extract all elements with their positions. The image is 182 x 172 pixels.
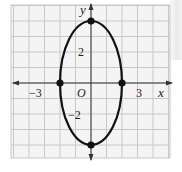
y-axis-label: y <box>78 2 86 17</box>
origin-label: O <box>77 86 86 100</box>
intercept-point <box>118 79 125 86</box>
x-tick-label-3: 3 <box>136 86 142 100</box>
x-axis-label: x <box>157 85 164 100</box>
x-tick-label-neg3: −3 <box>29 86 42 100</box>
intercept-point <box>87 141 94 148</box>
y-tick-label-2: 2 <box>78 45 84 59</box>
ellipse-graph: y x O −3 3 2 −2 <box>0 0 182 172</box>
intercept-point <box>56 79 63 86</box>
intercept-point <box>87 17 94 24</box>
y-tick-label-neg2: −2 <box>68 108 81 122</box>
